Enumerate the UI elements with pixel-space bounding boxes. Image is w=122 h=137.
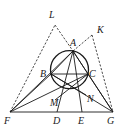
label-N: N [86,93,95,104]
solid-lines [10,51,113,112]
label-B: B [40,68,46,79]
label-A: A [69,37,77,48]
label-F: F [3,115,11,126]
label-K: K [96,24,105,35]
label-M: M [49,97,59,108]
label-D: D [52,115,61,126]
segment-AE [73,51,82,112]
label-L: L [48,9,55,20]
geometry-diagram: L K A B C M N F D E G [0,0,122,137]
segment-AD [57,51,73,112]
label-E: E [77,115,84,126]
segment-CM [55,74,88,100]
segment-FC [10,74,88,112]
segment-FL [10,25,55,112]
label-C: C [89,68,96,79]
point-labels: L K A B C M N F D E G [3,9,114,126]
dashed-lines [10,25,113,112]
label-G: G [107,115,114,126]
